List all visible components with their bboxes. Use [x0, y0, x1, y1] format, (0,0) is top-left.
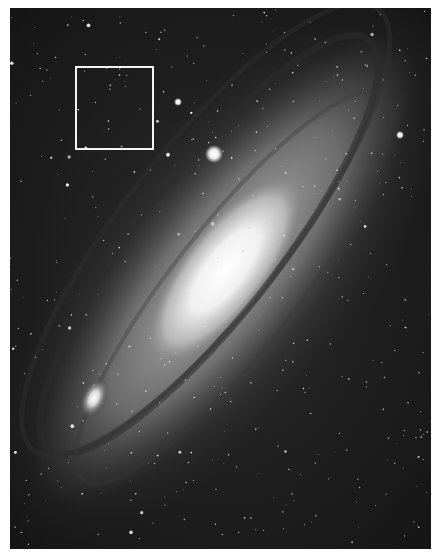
star: [248, 227, 250, 229]
star: [258, 427, 259, 428]
star: [93, 385, 94, 386]
star: [223, 463, 224, 464]
star: [382, 79, 383, 80]
star: [169, 361, 170, 362]
star: [354, 118, 355, 119]
star: [261, 21, 262, 22]
star: [197, 37, 198, 38]
star: [418, 527, 420, 529]
star: [368, 277, 369, 278]
star: [371, 152, 373, 154]
star: [46, 69, 47, 70]
star: [377, 171, 378, 172]
star: [156, 120, 159, 123]
star: [423, 459, 424, 460]
star: [383, 194, 384, 195]
star: [386, 264, 387, 265]
star: [163, 91, 164, 92]
star: [205, 266, 209, 270]
star: [198, 159, 199, 160]
star: [275, 148, 277, 150]
star: [259, 308, 260, 309]
star: [140, 511, 143, 514]
star: [30, 95, 31, 96]
star: [423, 129, 424, 130]
star: [363, 88, 364, 89]
star: [118, 247, 120, 249]
star: [383, 117, 384, 118]
star: [11, 17, 12, 18]
star: [275, 10, 276, 11]
star: [178, 451, 181, 454]
star: [139, 538, 140, 539]
star: [293, 343, 294, 344]
bright-star: [174, 98, 182, 106]
star: [79, 294, 80, 295]
star: [48, 468, 49, 469]
star: [10, 62, 14, 66]
star: [263, 530, 264, 531]
star: [20, 532, 22, 534]
star: [255, 150, 256, 151]
star: [361, 51, 363, 53]
star: [399, 177, 401, 179]
star: [82, 420, 83, 421]
star: [242, 53, 243, 54]
star: [338, 181, 339, 182]
star: [404, 430, 405, 431]
star: [92, 370, 93, 371]
star: [188, 462, 190, 464]
star: [68, 462, 69, 463]
star: [27, 517, 28, 518]
star: [174, 165, 175, 166]
star: [291, 52, 293, 54]
star: [225, 392, 226, 393]
galaxy-photograph: [10, 8, 431, 549]
star: [309, 21, 310, 22]
star: [351, 541, 353, 543]
star: [427, 431, 428, 432]
star: [281, 166, 282, 167]
star: [384, 377, 386, 379]
star: [212, 460, 213, 461]
star: [120, 22, 121, 23]
star: [70, 456, 71, 457]
star: [365, 64, 367, 66]
star: [202, 193, 203, 194]
star: [164, 496, 165, 497]
star: [312, 212, 313, 213]
star: [233, 15, 234, 16]
star: [231, 157, 233, 159]
star: [35, 357, 36, 358]
star: [413, 521, 414, 522]
star: [355, 101, 356, 102]
star: [34, 27, 35, 28]
star: [325, 158, 326, 159]
star: [297, 65, 298, 66]
star: [101, 493, 102, 494]
star: [330, 179, 331, 180]
star: [158, 38, 160, 40]
star: [54, 299, 55, 300]
star: [194, 173, 196, 175]
star: [292, 268, 295, 271]
star: [346, 449, 347, 450]
star: [266, 52, 267, 53]
star: [193, 63, 194, 64]
star: [210, 408, 211, 409]
star: [263, 12, 265, 14]
star: [306, 375, 307, 376]
star: [17, 279, 19, 281]
star: [148, 328, 149, 329]
star: [67, 155, 70, 158]
star: [291, 493, 292, 494]
galaxy-image: [10, 8, 431, 549]
star: [128, 345, 130, 347]
star: [61, 487, 62, 488]
star: [33, 43, 34, 44]
star: [164, 364, 165, 365]
star: [244, 517, 246, 519]
star: [238, 125, 239, 126]
star: [152, 522, 153, 523]
star: [284, 450, 286, 452]
